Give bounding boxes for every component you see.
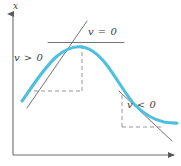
position-time-graph [0,0,181,166]
label-v-greater-than-zero: v > 0 [14,53,43,63]
position-curve [22,47,177,123]
positive-slope-tangent-line [27,21,87,108]
label-v-less-than-zero: v < 0 [127,100,156,110]
tangent-lines-group [27,21,172,141]
position-curve-group [22,47,177,123]
slope-triangles-group [27,43,161,127]
figure-container: x v > 0 v = 0 v < 0 [0,0,181,166]
label-v-equals-zero: v = 0 [88,27,117,37]
axis-label-x: x [13,2,18,11]
